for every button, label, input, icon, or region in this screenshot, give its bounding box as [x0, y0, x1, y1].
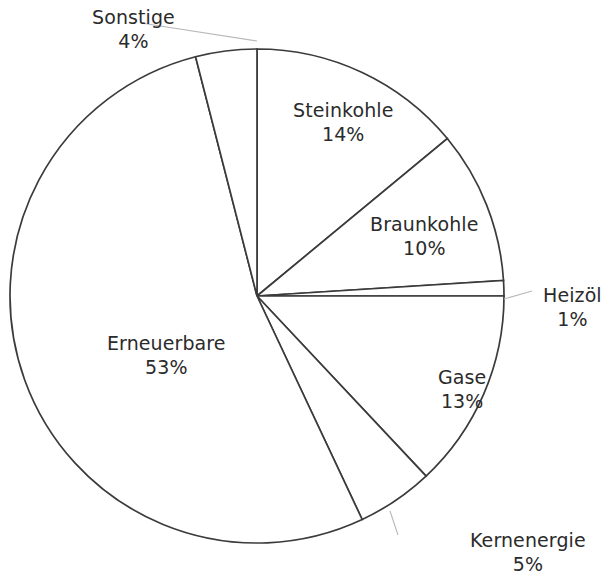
- slice-label-value-sonstige: 4%: [92, 29, 175, 53]
- slice-label-value-erneuerbare: 53%: [107, 355, 226, 379]
- slice-label-name-gase: Gase: [438, 365, 486, 389]
- slice-label-name-braunkohle: Braunkohle: [370, 212, 479, 236]
- leader-heizoel: [504, 291, 532, 299]
- leader-kernenergie: [390, 511, 398, 535]
- slice-label-braunkohle: Braunkohle10%: [370, 212, 479, 261]
- slice-label-name-heizoel: Heizöl: [543, 283, 602, 307]
- slice-label-name-erneuerbare: Erneuerbare: [107, 331, 226, 355]
- slice-label-heizoel: Heizöl1%: [543, 283, 602, 332]
- slice-label-sonstige: Sonstige4%: [92, 5, 175, 54]
- slice-label-value-heizoel: 1%: [543, 307, 602, 331]
- slice-label-value-gase: 13%: [438, 389, 486, 413]
- pie-slice-group: [10, 49, 504, 543]
- slice-label-name-sonstige: Sonstige: [92, 5, 175, 29]
- slice-label-value-kernenergie: 5%: [470, 552, 586, 575]
- slice-label-steinkohle: Steinkohle14%: [293, 98, 393, 147]
- slice-label-gase: Gase13%: [438, 365, 486, 414]
- slice-label-erneuerbare: Erneuerbare53%: [107, 331, 226, 380]
- slice-label-value-steinkohle: 14%: [293, 122, 393, 146]
- slice-label-name-kernenergie: Kernenergie: [470, 528, 586, 552]
- slice-label-value-braunkohle: 10%: [370, 236, 479, 260]
- slice-label-kernenergie: Kernenergie5%: [470, 528, 586, 575]
- slice-label-name-steinkohle: Steinkohle: [293, 98, 393, 122]
